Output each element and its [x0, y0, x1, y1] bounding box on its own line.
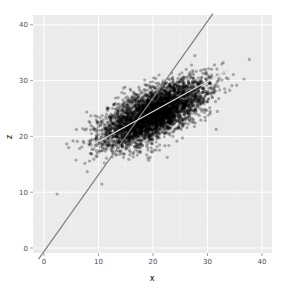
y-axis-title: z: [5, 135, 14, 139]
x-axis-title: x: [150, 274, 155, 283]
y-tick-label: 30: [19, 77, 28, 85]
y-tick-label: 0: [24, 245, 28, 253]
y-tick-label: 20: [19, 133, 28, 141]
x-tick-label: 30: [203, 258, 212, 266]
x-tick-label: 10: [94, 258, 103, 266]
y-tick-label: 10: [19, 189, 28, 197]
x-axis: 010203040: [42, 253, 267, 266]
y-axis: 010203040: [19, 21, 33, 252]
x-tick-label: 40: [258, 258, 267, 266]
x-tick-label: 0: [42, 258, 46, 266]
y-tick-label: 40: [19, 21, 28, 29]
scatter-plot: 010203040 010203040 x z: [0, 0, 285, 295]
x-tick-label: 20: [149, 258, 158, 266]
